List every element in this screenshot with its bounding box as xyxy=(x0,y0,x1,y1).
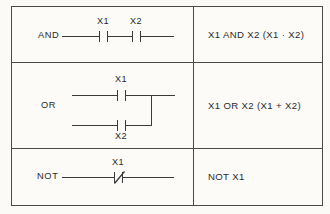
page-root: AND X1 X2 xyxy=(0,0,330,214)
table-row-not: NOT X1 NOT X1 xyxy=(12,149,322,205)
contact-tag-x1-or: X1 xyxy=(115,74,127,84)
branch-wire-bottom-left-or xyxy=(72,125,117,126)
ladder-diagram-not: NOT X1 xyxy=(12,149,193,205)
table-row-or: OR X1 X2 xyxy=(12,63,322,149)
expression-text-not: NOT X1 xyxy=(208,171,245,182)
table-row-and: AND X1 X2 xyxy=(12,7,322,63)
ladder-logic-table: AND X1 X2 xyxy=(11,6,323,206)
expression-cell-not: NOT X1 xyxy=(194,149,322,205)
ladder-diagram-and: AND X1 X2 xyxy=(12,7,193,62)
rung-wire-right-not xyxy=(123,177,174,178)
rung-wire-mid-and xyxy=(108,36,132,37)
contact-tag-x1-and: X1 xyxy=(97,16,109,26)
gate-label-and: AND xyxy=(38,30,59,40)
contact-tag-x2-and: X2 xyxy=(130,16,142,26)
rung-wire-left-not xyxy=(62,177,114,178)
gate-label-not: NOT xyxy=(37,171,58,181)
branch-wire-top-left-or xyxy=(72,95,117,96)
contact-tag-x1-not: X1 xyxy=(112,157,124,167)
ladder-diagram-or: OR X1 X2 xyxy=(12,63,193,148)
rung-wire-right-and xyxy=(141,36,174,37)
rung-wire-left-and xyxy=(62,36,99,37)
gate-label-or: OR xyxy=(41,100,56,110)
contact-tag-x2-or: X2 xyxy=(115,131,127,141)
expression-cell-or: X1 OR X2 (X1 + X2) xyxy=(194,63,322,148)
expression-cell-and: X1 AND X2 (X1 · X2) xyxy=(194,7,322,62)
expression-text-and: X1 AND X2 (X1 · X2) xyxy=(208,29,304,40)
branch-tie-wire-or xyxy=(151,95,152,126)
expression-text-or: X1 OR X2 (X1 + X2) xyxy=(208,100,301,111)
branch-wire-bottom-right-or xyxy=(126,125,152,126)
